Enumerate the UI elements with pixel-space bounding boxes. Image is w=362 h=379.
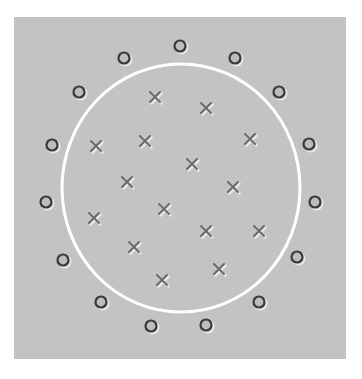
circle-marker-icon (201, 320, 214, 333)
circle-marker-icon (304, 139, 317, 152)
circle-marker-icon (41, 197, 54, 210)
circle-marker-icon (47, 140, 60, 153)
circle-marker-icon (58, 255, 71, 268)
circle-marker-icon (96, 297, 109, 310)
circle-marker-icon (74, 87, 87, 100)
circle-marker-icon (292, 252, 305, 265)
background-panel (14, 17, 346, 359)
circle-marker-icon (146, 321, 159, 334)
circle-marker-icon (254, 297, 267, 310)
diagram-canvas (0, 0, 362, 379)
circle-marker-icon (175, 41, 188, 54)
circle-marker-icon (310, 197, 323, 210)
circle-marker-icon (119, 53, 132, 66)
circle-marker-icon (274, 87, 287, 100)
circle-marker-icon (230, 53, 243, 66)
